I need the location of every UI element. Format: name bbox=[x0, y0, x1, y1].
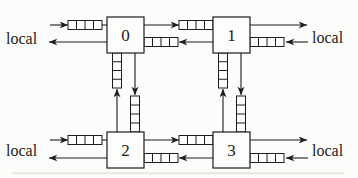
buffer-north-input-2 bbox=[131, 96, 140, 132]
router-1: 1 bbox=[213, 17, 250, 53]
local-label-bottom-left: local bbox=[6, 142, 38, 159]
figure-canvas: 0123locallocallocallocal bbox=[0, 0, 358, 178]
buffer-south-input-0 bbox=[113, 53, 122, 88]
local-label-top-left: local bbox=[6, 30, 38, 47]
router-3-label: 3 bbox=[227, 141, 236, 160]
buffer-east-input-3 bbox=[250, 154, 284, 163]
router-2-label: 2 bbox=[121, 141, 130, 160]
buffer-west-input-0 bbox=[68, 21, 102, 30]
buffer-east-input-2 bbox=[144, 154, 178, 163]
router-0-label: 0 bbox=[121, 26, 130, 45]
router-1-label: 1 bbox=[227, 26, 236, 45]
router-3: 3 bbox=[213, 132, 250, 168]
router-0: 0 bbox=[107, 17, 144, 53]
local-label-top-right: local bbox=[312, 29, 344, 46]
buffer-south-input-1 bbox=[219, 53, 228, 88]
buffer-east-input-0 bbox=[144, 38, 178, 47]
buffer-west-input-1 bbox=[179, 21, 213, 30]
buffer-north-input-3 bbox=[237, 96, 246, 132]
local-label-bottom-right: local bbox=[312, 142, 344, 159]
buffer-west-input-3 bbox=[179, 136, 213, 145]
mesh-network-diagram: 0123locallocallocallocal bbox=[0, 0, 358, 178]
router-2: 2 bbox=[107, 132, 144, 168]
buffer-east-input-1 bbox=[250, 38, 284, 47]
buffer-west-input-2 bbox=[68, 136, 102, 145]
scan-artifact bbox=[12, 172, 344, 174]
